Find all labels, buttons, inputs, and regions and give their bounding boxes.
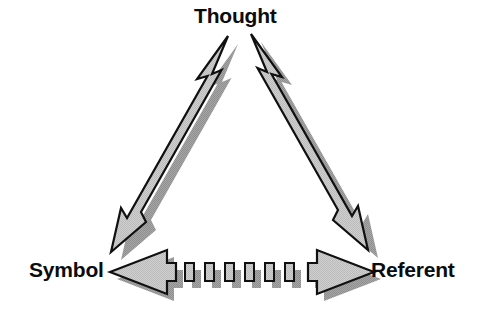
node-label-thought: Thought xyxy=(194,5,277,26)
semiotic-triangle-diagram: Thought Symbol Referent xyxy=(0,0,479,318)
node-label-symbol: Symbol xyxy=(29,259,104,280)
connector-symbol-referent xyxy=(110,250,374,294)
connector-symbol-thought xyxy=(111,36,228,252)
connector-thought-referent xyxy=(251,34,368,250)
node-label-referent: Referent xyxy=(371,259,455,280)
